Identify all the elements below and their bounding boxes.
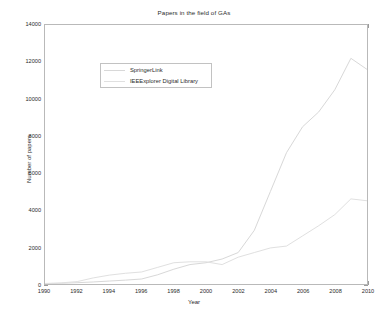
y-tick-mark	[44, 285, 48, 286]
x-tick-label: 2006	[297, 288, 309, 294]
chart-title: Papers in the field of GAs	[0, 9, 388, 16]
x-tick-label: 2004	[265, 288, 277, 294]
x-tick-label: 1994	[103, 288, 115, 294]
y-tick-label: 8000	[0, 133, 41, 139]
x-axis-label: Year	[0, 299, 388, 305]
y-tick-label: 6000	[0, 170, 41, 176]
x-tick-label: 2000	[200, 288, 212, 294]
x-tick-label: 2008	[329, 288, 341, 294]
y-tick-mark-right	[364, 285, 368, 286]
x-tick-label: 2002	[232, 288, 244, 294]
chart-figure: Papers in the field of GAs Number of pap…	[0, 0, 388, 317]
x-tick-label: 1990	[38, 288, 50, 294]
y-tick-label: 14000	[0, 21, 41, 27]
x-tick-label: 1996	[135, 288, 147, 294]
legend-item-ieeexplorer[interactable]: IEEExplorer Digital Library	[104, 76, 208, 87]
legend-item-springerlink[interactable]: SpringerLink	[104, 65, 208, 76]
y-tick-label: 4000	[0, 207, 41, 213]
legend-swatch-springerlink	[104, 70, 125, 71]
y-tick-label: 0	[0, 282, 41, 288]
series-line	[45, 58, 367, 283]
x-tick-label: 1992	[70, 288, 82, 294]
x-tick-label: 1998	[167, 288, 179, 294]
legend-swatch-ieeexplorer	[104, 81, 125, 82]
x-tick-label: 2010	[362, 288, 374, 294]
y-tick-label: 10000	[0, 96, 41, 102]
legend-label-ieeexplorer: IEEExplorer Digital Library	[130, 79, 198, 85]
x-tick-mark	[368, 281, 369, 285]
y-tick-label: 12000	[0, 58, 41, 64]
x-tick-mark-top	[368, 24, 369, 28]
y-tick-label: 2000	[0, 245, 41, 251]
legend-label-springerlink: SpringerLink	[130, 68, 163, 74]
series-line	[45, 199, 367, 284]
legend-box: SpringerLink IEEExplorer Digital Library	[100, 63, 212, 88]
